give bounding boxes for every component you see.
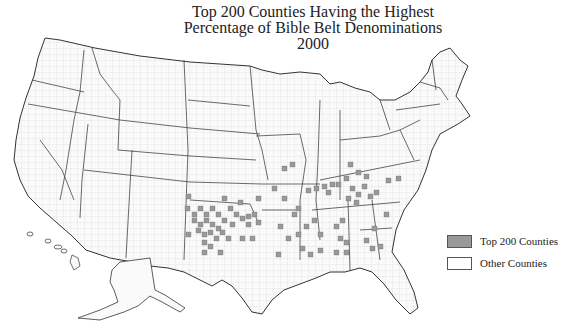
legend-swatch-other [447, 257, 472, 270]
map-title: Top 200 Counties Having the Highest Perc… [0, 4, 566, 52]
legend-swatch-top-200 [447, 235, 472, 248]
title-line-1: Top 200 Counties Having the Highest [0, 4, 566, 20]
legend-item-top-200: Top 200 Counties [447, 230, 558, 252]
legend: Top 200 Counties Other Counties [447, 230, 558, 274]
hawaii [27, 232, 80, 270]
legend-label-other: Other Counties [480, 257, 547, 269]
title-line-3: 2000 [0, 36, 566, 52]
legend-label-top-200: Top 200 Counties [480, 235, 558, 247]
title-line-2: Percentage of Bible Belt Denominations [0, 20, 566, 36]
legend-item-other: Other Counties [447, 252, 558, 274]
